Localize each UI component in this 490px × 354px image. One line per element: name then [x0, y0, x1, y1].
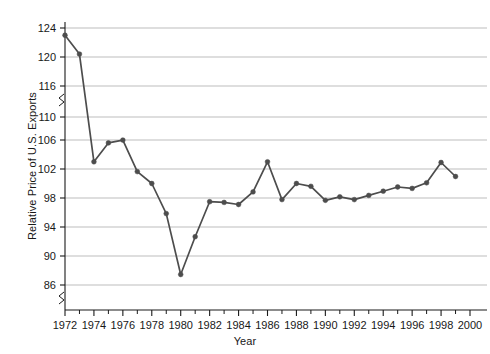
svg-text:1972: 1972: [53, 319, 77, 331]
svg-text:1994: 1994: [371, 319, 395, 331]
svg-text:1978: 1978: [140, 319, 164, 331]
svg-text:1974: 1974: [82, 319, 106, 331]
svg-text:124: 124: [38, 22, 56, 34]
x-axis-title: Year: [0, 335, 490, 347]
svg-text:2000: 2000: [458, 319, 482, 331]
chart-container: 86909498102106110116120124 1972197419761…: [0, 0, 490, 354]
svg-text:1996: 1996: [400, 319, 424, 331]
svg-text:94: 94: [44, 221, 56, 233]
svg-text:90: 90: [44, 250, 56, 262]
svg-text:98: 98: [44, 192, 56, 204]
gridlines-group: [65, 28, 487, 285]
y-axis-tick-labels: 86909498102106110116120124: [38, 22, 56, 291]
line-chart-plot: 86909498102106110116120124 1972197419761…: [0, 0, 490, 354]
svg-text:1992: 1992: [342, 319, 366, 331]
data-series-markers: [63, 33, 458, 277]
svg-text:1998: 1998: [429, 319, 453, 331]
svg-text:1980: 1980: [168, 319, 192, 331]
svg-text:1984: 1984: [226, 319, 250, 331]
svg-text:102: 102: [38, 163, 56, 175]
svg-text:106: 106: [38, 134, 56, 146]
svg-text:1988: 1988: [284, 319, 308, 331]
x-axis-tick-labels: 1972197419761978198019821984198619881990…: [53, 319, 482, 331]
svg-text:1990: 1990: [313, 319, 337, 331]
svg-text:1982: 1982: [197, 319, 221, 331]
x-axis-ticks-group: [65, 310, 470, 316]
axis-lines-group: [65, 22, 487, 310]
y-axis-break-symbol: [59, 94, 64, 304]
svg-text:120: 120: [38, 51, 56, 63]
data-series-line: [65, 35, 456, 274]
svg-text:110: 110: [38, 111, 56, 123]
svg-text:1986: 1986: [255, 319, 279, 331]
svg-text:86: 86: [44, 279, 56, 291]
svg-text:116: 116: [38, 80, 56, 92]
svg-text:1976: 1976: [111, 319, 135, 331]
y-axis-ticks-group: [60, 28, 65, 285]
y-axis-title: Relative Price of U.S. Exports: [26, 56, 38, 276]
